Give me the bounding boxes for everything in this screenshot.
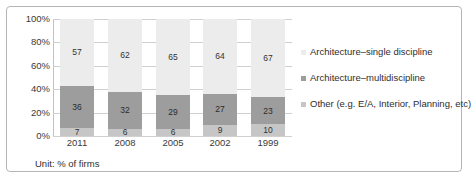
x-axis-tick-label: 2002 xyxy=(198,138,242,148)
bar-segment: 36 xyxy=(60,86,94,128)
bar-column: 64279 xyxy=(203,19,237,136)
bar-segment-value: 9 xyxy=(218,126,223,135)
bar-segment: 6 xyxy=(156,129,190,136)
legend-item-label: Architecture–single discipline xyxy=(310,47,433,57)
bar-segment: 6 xyxy=(108,129,142,136)
bar-segment-value: 62 xyxy=(120,51,129,60)
y-axis-tick-label: 40% xyxy=(10,84,50,94)
bar-segment-value: 64 xyxy=(215,52,224,61)
y-axis-tick-label: 100% xyxy=(10,14,50,24)
legend-item: Architecture–single discipline xyxy=(301,47,459,57)
legend-swatch-icon xyxy=(301,76,306,81)
bar-segment: 23 xyxy=(251,97,285,124)
bar-segment: 10 xyxy=(251,124,285,136)
bar-segment-value: 32 xyxy=(120,106,129,115)
bar-segment-value: 27 xyxy=(215,105,224,114)
bar-segment-value: 67 xyxy=(263,54,272,63)
bar-segment-value: 65 xyxy=(168,53,177,62)
y-axis-tick-label: 0% xyxy=(10,131,50,141)
bar-column: 672310 xyxy=(251,19,285,136)
chart-frame: 100%80%60%40%20%0% 573676232665296642796… xyxy=(6,6,462,172)
bar-segment: 64 xyxy=(203,19,237,94)
bar-segment: 67 xyxy=(251,19,285,97)
y-axis-tick-label: 20% xyxy=(10,108,50,118)
legend-item-label: Architecture–multidiscipline xyxy=(310,73,425,83)
bar-segment: 57 xyxy=(60,19,94,86)
legend-swatch-icon xyxy=(301,50,306,55)
plot-area: 57367623266529664279672310 xyxy=(53,19,292,136)
y-axis-line xyxy=(53,19,54,136)
bar-segment: 29 xyxy=(156,95,190,129)
bar-segment: 62 xyxy=(108,19,142,92)
bar-segment-value: 36 xyxy=(72,103,81,112)
legend-swatch-icon xyxy=(301,102,306,107)
x-axis-tick-label: 1999 xyxy=(246,138,290,148)
bar-column: 65296 xyxy=(156,19,190,136)
x-axis-tick-label: 2011 xyxy=(55,138,99,148)
bar-segment-value: 10 xyxy=(263,126,272,135)
bar-segment: 7 xyxy=(60,128,94,136)
bar-segment-value: 6 xyxy=(171,128,176,137)
x-axis-tick-label: 2008 xyxy=(103,138,147,148)
bar-segment: 32 xyxy=(108,92,142,129)
y-axis-tick-label: 80% xyxy=(10,37,50,47)
bar-column: 62326 xyxy=(108,19,142,136)
legend-item-label: Other (e.g. E/A, Interior, Planning, etc… xyxy=(310,99,471,109)
unit-caption: Unit: % of firms xyxy=(35,159,99,169)
chart-legend: Architecture–single disciplineArchitectu… xyxy=(301,47,459,125)
legend-item: Architecture–multidiscipline xyxy=(301,73,459,83)
bar-segment: 9 xyxy=(203,125,237,136)
bar-column: 57367 xyxy=(60,19,94,136)
bar-segment: 27 xyxy=(203,94,237,126)
x-axis-tick-label: 2005 xyxy=(151,138,195,148)
legend-item: Other (e.g. E/A, Interior, Planning, etc… xyxy=(301,99,459,109)
bar-segment-value: 57 xyxy=(72,48,81,57)
bar-segment-value: 29 xyxy=(168,108,177,117)
bar-segment-value: 23 xyxy=(263,107,272,116)
bar-segment-value: 6 xyxy=(123,128,128,137)
y-axis-tick-label: 60% xyxy=(10,61,50,71)
bar-segment: 65 xyxy=(156,19,190,95)
bar-segment-value: 7 xyxy=(75,128,80,137)
y-axis: 100%80%60%40%20%0% xyxy=(7,19,50,136)
x-axis: 20112008200520021999 xyxy=(53,138,292,152)
